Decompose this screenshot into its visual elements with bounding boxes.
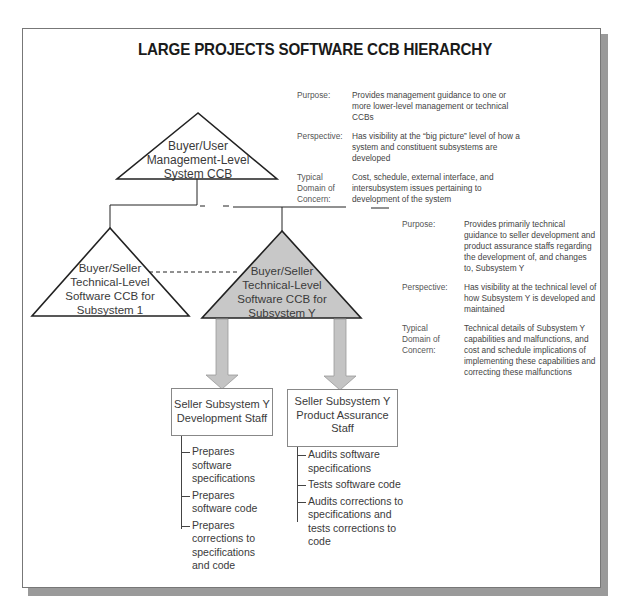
box-line: Seller Subsystem Y [288,395,397,409]
task-item: Audits corrections to specifications and… [298,495,416,549]
perspective-row: Perspective: Has visibility at the techn… [402,282,598,315]
box-line: Staff [288,422,397,436]
domain-label: Typical Domain of Concern: [402,323,464,378]
product-assurance-tasks: Audits software specifications Tests sof… [298,448,416,552]
perspective-label: Perspective: [297,131,352,164]
management-ccb-info: Purpose: Provides management guidance to… [297,90,527,213]
domain-row: Typical Domain of Concern: Technical det… [402,323,598,378]
task-item: Prepares software code [182,489,262,516]
subsystem-1-ccb-label: Buyer/Seller Technical-Level Software CC… [45,261,175,317]
task-item: Audits software specifications [298,448,416,475]
arrow-to-development-staff [206,319,238,389]
task-item: Prepares software specifications [182,445,262,486]
label-line: Technical-Level [45,275,175,289]
label-line: Buyer/Seller [45,261,175,275]
purpose-label: Purpose: [402,219,464,274]
arrow-to-product-assurance-staff [324,319,356,390]
purpose-label: Purpose: [297,90,352,123]
box-line: Product Assurance [288,409,397,423]
domain-label: Typical Domain of Concern: [297,172,352,205]
subsystem-y-ccb-label: Buyer/Seller Technical-Level Software CC… [216,264,348,320]
task-item: Prepares corrections to specifications a… [182,519,262,573]
purpose-row: Purpose: Provides primarily technical gu… [402,219,598,274]
perspective-text: Has visibility at the “big picture” leve… [352,131,527,164]
label-line: Software CCB for [216,292,348,306]
management-ccb-label: Buyer/User Management-Level System CCB [132,139,264,181]
label-line: Buyer/Seller [216,264,348,278]
purpose-row: Purpose: Provides management guidance to… [297,90,527,123]
box-line: Development Staff [172,412,272,426]
label-line: System CCB [132,167,264,181]
domain-text: Cost, schedule, external interface, and … [352,172,527,205]
label-line: Subsystem Y [216,306,348,320]
label-line: Technical-Level [216,278,348,292]
task-item: Tests software code [298,478,416,492]
product-assurance-staff-box[interactable]: Seller Subsystem Y Product Assurance Sta… [287,389,398,447]
label-line: Software CCB for [45,289,175,303]
box-line: Seller Subsystem Y [172,398,272,412]
domain-text: Technical details of Subsystem Y capabil… [464,323,598,378]
domain-row: Typical Domain of Concern: Cost, schedul… [297,172,527,205]
label-line: Subsystem 1 [45,303,175,317]
page-title: LARGE PROJECTS SOFTWARE CCB HIERARCHY [25,40,605,59]
perspective-label: Perspective: [402,282,464,315]
development-staff-box[interactable]: Seller Subsystem Y Development Staff [171,388,273,436]
subsystem-y-ccb-info: Purpose: Provides primarily technical gu… [402,219,598,386]
purpose-text: Provides management guidance to one or m… [352,90,527,123]
purpose-text: Provides primarily technical guidance to… [464,219,598,274]
label-line: Management-Level [132,153,264,167]
perspective-text: Has visibility at the technical level of… [464,282,598,315]
development-tasks: Prepares software specifications Prepare… [182,445,262,576]
perspective-row: Perspective: Has visibility at the “big … [297,131,527,164]
label-line: Buyer/User [132,139,264,153]
